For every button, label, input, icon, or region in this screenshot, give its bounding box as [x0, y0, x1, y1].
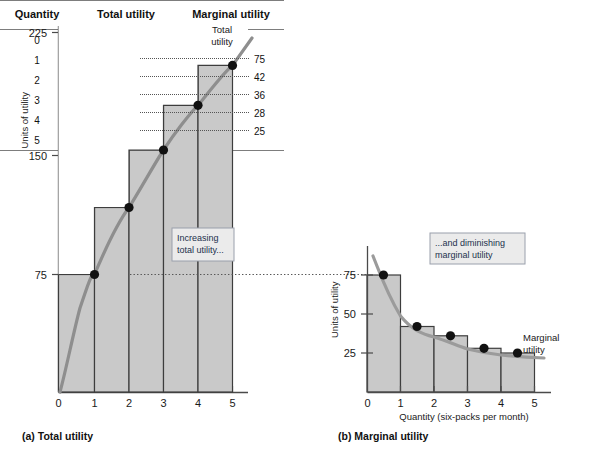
mu-data-point-3 [446, 331, 455, 340]
mu-data-point-4 [479, 344, 488, 353]
mu-data-point-5 [513, 348, 522, 357]
y-tick-label-75-b: 75 [344, 269, 356, 281]
x-tick-label-4-b: 4 [498, 397, 504, 409]
mu-data-point-1 [379, 270, 388, 279]
y-axis-title-b: Units of utility [329, 281, 340, 338]
marginal-utility-chart: 75 50 25 Units of utility 0 1 2 3 4 5 Qu… [316, 0, 610, 430]
mu-data-point-2 [412, 322, 421, 331]
x-tick-label-5-b: 5 [531, 397, 537, 409]
y-tick-label-50-b: 50 [344, 308, 356, 320]
utility-figure: 225 150 75 Units of utility 0 1 2 3 4 5 [0, 0, 610, 455]
x-tick-label-2-b: 2 [431, 397, 437, 409]
x-tick-label-1-b: 1 [397, 397, 403, 409]
x-tick-label-0-b: 0 [364, 397, 370, 409]
x-axis-title-b: Quantity (six-packs per month) [399, 411, 528, 422]
marginal-utility-chart-panel: 75 50 25 Units of utility 0 1 2 3 4 5 Qu… [316, 0, 610, 430]
y-tick-label-25-b: 25 [344, 347, 356, 359]
marginal-utility-curve-label-line2: utility [523, 344, 545, 355]
panel-b-caption: (b) Marginal utility [338, 430, 428, 442]
callout-diminishing-line2: marginal utility [435, 250, 493, 260]
marginal-utility-curve-label-line1: Marginal [523, 332, 559, 343]
mu-bar-1 [367, 275, 401, 392]
callout-diminishing-line1: ...and diminishing [435, 238, 505, 248]
x-tick-label-3-b: 3 [464, 397, 470, 409]
